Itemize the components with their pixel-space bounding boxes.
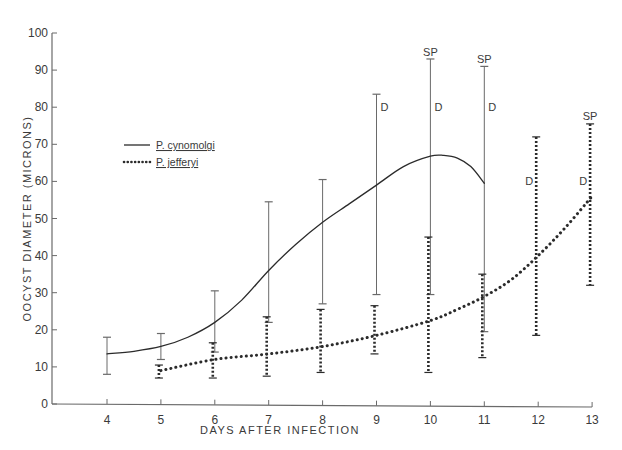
y-tick-label: 70 <box>35 137 49 151</box>
legend-label: P. cynomolgi <box>156 139 215 151</box>
sp-annotation: SP <box>423 46 438 58</box>
y-tick-label: 90 <box>35 63 49 77</box>
y-tick-label: 40 <box>35 249 49 263</box>
x-tick-label: 9 <box>373 413 380 427</box>
x-tick-label: 13 <box>585 413 599 427</box>
y-axis-title: OOCYST DIAMETER (MICRONS) <box>21 116 33 322</box>
d-annotation: D <box>579 175 587 187</box>
y-tick-label: 50 <box>35 212 49 226</box>
x-tick-label: 10 <box>424 413 438 427</box>
x-tick-label: 11 <box>478 413 491 427</box>
x-tick-label: 12 <box>532 413 546 427</box>
x-tick-label: 5 <box>158 413 165 427</box>
d-annotation: D <box>488 101 496 113</box>
y-tick-label: 80 <box>35 100 49 114</box>
x-axis-title: DAYS AFTER INFECTION <box>200 424 360 436</box>
x-axis-line <box>52 404 592 407</box>
sp-annotation: SP <box>583 110 598 122</box>
d-annotation: D <box>381 101 389 113</box>
oocyst-diameter-chart: 010203040506070809010045678910111213 DDS… <box>0 0 622 450</box>
axes: 010203040506070809010045678910111213 <box>28 26 599 427</box>
legend-label: P. jefferyi <box>156 156 198 168</box>
y-tick-label: 20 <box>35 323 49 337</box>
y-tick-label: 100 <box>28 26 48 40</box>
series-layer: DDSPDSPDDSP <box>103 46 597 378</box>
y-tick-label: 0 <box>41 397 48 411</box>
chart-canvas: 010203040506070809010045678910111213 DDS… <box>0 0 622 450</box>
y-tick-label: 10 <box>35 360 49 374</box>
legend: P. cynomolgiP. jefferyi <box>124 139 215 168</box>
sp-annotation: SP <box>477 53 492 65</box>
series-p-cynomolgi: DDSPDSP <box>103 46 496 375</box>
y-tick-label: 60 <box>35 174 49 188</box>
d-annotation: D <box>434 101 442 113</box>
d-annotation: D <box>525 175 533 187</box>
x-tick-label: 4 <box>104 413 111 427</box>
y-tick-label: 30 <box>35 286 49 300</box>
